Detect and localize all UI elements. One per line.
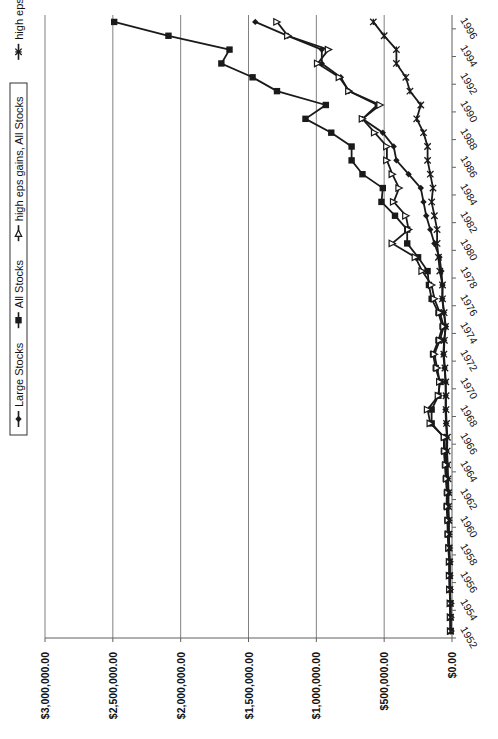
x-marker-icon — [428, 199, 434, 205]
x-marker-icon — [393, 60, 399, 66]
triangle-marker-icon — [396, 185, 402, 191]
triangle-marker-icon — [431, 296, 437, 302]
diamond-marker-icon — [252, 19, 258, 25]
x-marker-icon — [418, 102, 424, 108]
square-marker-icon — [165, 33, 171, 39]
square-marker-icon — [328, 129, 334, 135]
x-marker-icon — [431, 213, 437, 219]
year-axis-label: 1954 — [458, 596, 480, 622]
year-axis-label: 1992 — [458, 70, 480, 96]
diamond-marker-icon — [420, 199, 426, 205]
square-marker-icon — [249, 74, 255, 80]
triangle-marker-icon — [325, 46, 331, 52]
year-axis-label: 1972 — [458, 347, 480, 373]
diamond-marker-icon — [423, 213, 429, 219]
square-marker-icon — [218, 60, 224, 66]
value-axis-label: $0.00 — [446, 652, 458, 678]
year-axis-label: 1994 — [458, 43, 480, 69]
triangle-marker-icon — [444, 476, 450, 482]
x-marker-icon — [424, 143, 430, 149]
series-high-eps-gains-all-stocks — [274, 19, 454, 635]
legend-label: high eps gains, All Stocks — [13, 96, 25, 221]
square-marker-icon — [323, 102, 329, 108]
diamond-marker-icon — [427, 226, 433, 232]
square-marker-icon — [15, 317, 21, 323]
year-axis-label: 1960 — [458, 513, 480, 539]
triangle-marker-icon — [431, 351, 437, 357]
series-line — [277, 22, 451, 631]
legend-label: high eps gains,Large Stocks — [13, 0, 25, 40]
rotated-line-chart: $0.00$500,000.00$1,000,000.00$1,500,000.… — [0, 0, 498, 739]
value-axis-label: $1,000,000.00 — [310, 652, 322, 719]
square-marker-icon — [378, 199, 384, 205]
legend-marker — [15, 317, 21, 323]
x-marker-icon — [420, 129, 426, 135]
square-marker-icon — [392, 213, 398, 219]
year-axis-label: 1956 — [458, 569, 480, 595]
year-axis-label: 1978 — [458, 264, 480, 290]
value-axis-label: $1,500,000.00 — [243, 652, 255, 719]
year-axis-label: 1996 — [458, 15, 480, 41]
year-axis-label: 1952 — [458, 624, 480, 650]
x-marker-icon — [424, 157, 430, 163]
year-axis-label: 1958 — [458, 541, 480, 567]
square-marker-icon — [302, 116, 308, 122]
triangle-marker-icon — [428, 282, 434, 288]
triangle-marker-icon — [384, 157, 390, 163]
chart-canvas: $0.00$500,000.00$1,000,000.00$1,500,000.… — [0, 0, 498, 739]
year-axis-label: 1964 — [458, 458, 480, 484]
year-axis-label: 1984 — [458, 181, 480, 207]
value-axis-label: $500,000.00 — [378, 652, 390, 711]
square-marker-icon — [274, 88, 280, 94]
legend: Large StocksAll Stockshigh eps gains, Al… — [10, 0, 27, 435]
square-marker-icon — [404, 240, 410, 246]
square-marker-icon — [348, 157, 354, 163]
x-marker-icon — [414, 116, 420, 122]
gridlines — [45, 15, 384, 638]
x-marker-icon — [403, 74, 409, 80]
value-axis-label: $2,000,000.00 — [175, 652, 187, 719]
x-marker-icon — [430, 185, 436, 191]
series-lines — [111, 19, 454, 635]
year-axis-label: 1976 — [458, 292, 480, 318]
legend-label: All Stocks — [13, 259, 25, 308]
triangle-marker-icon — [403, 213, 409, 219]
square-marker-icon — [226, 46, 232, 52]
year-axis-label: 1970 — [458, 375, 480, 401]
series-line — [373, 22, 450, 631]
triangle-marker-icon — [384, 143, 390, 149]
year-axis-label: 1980 — [458, 236, 480, 262]
triangle-marker-icon — [389, 171, 395, 177]
square-marker-icon — [359, 171, 365, 177]
year-axis-label: 1974 — [458, 320, 480, 346]
triangle-marker-icon — [346, 88, 352, 94]
triangle-marker-icon — [285, 33, 291, 39]
year-axis-label: 1990 — [458, 98, 480, 124]
x-marker-icon — [370, 19, 376, 25]
year-axis-label: 1988 — [458, 126, 480, 152]
year-axis-label: 1966 — [458, 430, 480, 456]
year-axis-label: 1982 — [458, 209, 480, 235]
value-axis-label: $2,500,000.00 — [107, 652, 119, 719]
series-line — [255, 22, 450, 631]
triangle-marker-icon — [377, 102, 383, 108]
year-axis-label: 1962 — [458, 486, 480, 512]
square-marker-icon — [348, 143, 354, 149]
year-axis-label: 1968 — [458, 403, 480, 429]
year-axis-label: 1986 — [458, 153, 480, 179]
x-marker-icon — [407, 88, 413, 94]
value-axis-label: $3,000,000.00 — [39, 652, 51, 719]
x-marker-icon — [393, 46, 399, 52]
series-line — [114, 22, 450, 631]
x-marker-icon — [381, 33, 387, 39]
square-marker-icon — [111, 19, 117, 25]
triangle-marker-icon — [405, 226, 411, 232]
series-large-stocks — [252, 19, 454, 635]
legend-label: Large Stocks — [13, 342, 25, 407]
x-marker-icon — [427, 171, 433, 177]
x-marker-icon — [434, 226, 440, 232]
square-marker-icon — [380, 185, 386, 191]
series-all-stocks — [111, 19, 454, 635]
triangle-marker-icon — [434, 365, 440, 371]
